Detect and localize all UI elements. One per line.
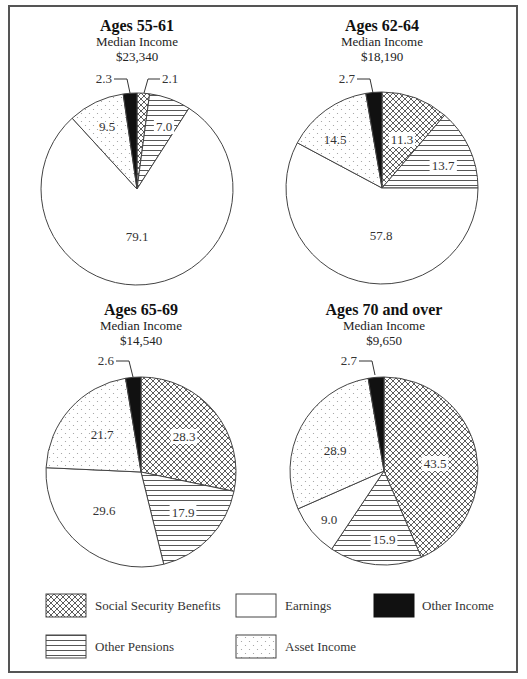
slice-label-other-pensions: 17.9 bbox=[172, 505, 195, 520]
pie-chart-ages-55-61: Ages 55-61 Median Income $23,340 2.3 2.1… bbox=[41, 17, 233, 285]
slice-label-asset-income: 14.5 bbox=[324, 132, 347, 147]
legend-label: Asset Income bbox=[285, 639, 356, 654]
median-income: $14,540 bbox=[120, 333, 162, 348]
median-income: $23,340 bbox=[116, 49, 158, 64]
black-swatch-icon bbox=[374, 594, 414, 617]
median-income: $9,650 bbox=[366, 333, 402, 348]
slice-label-asset-income: 9.5 bbox=[99, 119, 115, 134]
pie-subtitle: Median Income bbox=[341, 34, 423, 49]
slice-label-asset-income: 21.7 bbox=[91, 427, 114, 442]
legend-item-other-income: Other Income bbox=[374, 594, 494, 617]
white-swatch-icon bbox=[236, 594, 276, 617]
pie-title: Ages 65-69 bbox=[104, 301, 178, 319]
median-income: $18,190 bbox=[361, 49, 403, 64]
slice-label-other-pensions: 7.0 bbox=[156, 119, 172, 134]
slice-label-other-income: 2.3 bbox=[96, 71, 112, 86]
leader-line bbox=[144, 79, 160, 93]
legend-item-earnings: Earnings bbox=[236, 594, 331, 617]
legend-label: Other Income bbox=[422, 598, 494, 613]
pie-subtitle: Median Income bbox=[100, 318, 182, 333]
pie-slices bbox=[46, 377, 236, 567]
slice-label-asset-income: 28.9 bbox=[324, 443, 347, 458]
slice-label-other-income: 2.6 bbox=[98, 353, 115, 368]
crosshatch-swatch-icon bbox=[46, 594, 86, 617]
leader-line bbox=[357, 79, 373, 93]
horizontal-lines-swatch-icon bbox=[46, 635, 86, 658]
pie-chart-ages-65-69: Ages 65-69 Median Income $14,540 2.6 28.… bbox=[46, 301, 236, 567]
leader-line bbox=[116, 361, 133, 377]
pie-chart-ages-70-and-over: Ages 70 and over Median Income $9,650 2.… bbox=[290, 301, 478, 565]
leader-line bbox=[359, 361, 375, 375]
pie-subtitle: Median Income bbox=[343, 318, 425, 333]
slice-label-other-pensions: 13.7 bbox=[432, 158, 455, 173]
slice-label-social-security: 28.3 bbox=[173, 429, 196, 444]
pie-slice-asset-income bbox=[46, 378, 141, 472]
slice-label-earnings: 79.1 bbox=[126, 229, 149, 244]
slice-label-social-security: 43.5 bbox=[424, 456, 447, 471]
legend-label: Earnings bbox=[285, 598, 331, 613]
slice-label-other-income: 2.7 bbox=[339, 71, 356, 86]
slice-label-social-security: 11.3 bbox=[391, 132, 413, 147]
slice-label-earnings: 29.6 bbox=[93, 503, 116, 518]
pie-title: Ages 70 and over bbox=[326, 301, 443, 319]
leader-line bbox=[114, 79, 130, 93]
dots-swatch-icon bbox=[236, 635, 276, 658]
legend-item-other-pensions: Other Pensions bbox=[46, 635, 174, 658]
slice-label-other-pensions: 15.9 bbox=[373, 532, 396, 547]
legend-item-asset-income: Asset Income bbox=[236, 635, 356, 658]
legend-label: Other Pensions bbox=[95, 639, 174, 654]
pie-slices bbox=[286, 92, 478, 284]
legend: Social Security Benefits Earnings Other … bbox=[46, 594, 494, 658]
pie-slices bbox=[41, 93, 233, 285]
pie-title: Ages 55-61 bbox=[100, 17, 174, 35]
legend-item-social-security: Social Security Benefits bbox=[46, 594, 221, 617]
pie-subtitle: Median Income bbox=[96, 34, 178, 49]
pie-title: Ages 62-64 bbox=[345, 17, 419, 35]
legend-label: Social Security Benefits bbox=[95, 598, 221, 613]
slice-label-earnings: 57.8 bbox=[370, 228, 393, 243]
slice-label-social-security: 2.1 bbox=[162, 71, 178, 86]
pie-chart-ages-62-64: Ages 62-64 Median Income $18,190 2.7 11.… bbox=[286, 17, 478, 284]
slice-label-earnings: 9.0 bbox=[321, 512, 337, 527]
slice-label-other-income: 2.7 bbox=[341, 353, 358, 368]
chart-canvas: Ages 55-61 Median Income $23,340 2.3 2.1… bbox=[0, 0, 527, 679]
